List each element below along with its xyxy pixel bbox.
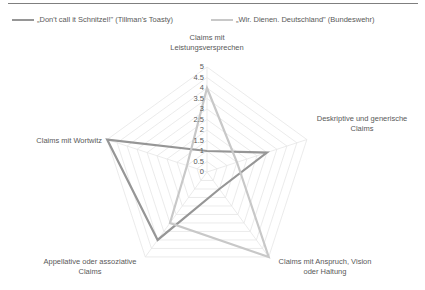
radial-tick-label: 0 [190,167,204,176]
axis-label-line: Claims mit [157,33,257,43]
axis-label-line: Appellative oder assoziative [30,257,150,267]
axis-label-line: Leistungsversprechen [157,43,257,53]
axis-label-appellative: Appellative oder assoziative Claims [30,257,150,277]
radial-tick-label: 2 [190,125,204,134]
axis-label-line: Claims mit Anspruch, Vision [265,257,385,267]
radial-tick-label: 5 [190,62,204,71]
radial-tick-label: 1 [190,146,204,155]
axis-label-line: Claims mit Wortwitz [22,136,102,146]
axis-label-anspruch: Claims mit Anspruch, Vision oder Haltung [265,257,385,277]
axis-label-deskriptive: Deskriptive und generische Claims [302,114,422,134]
axis-spoke [207,140,307,172]
radial-tick-label: 1.5 [190,136,204,145]
radial-tick-label: 0.5 [190,157,204,166]
axis-label-leistungsversprechen: Claims mit Leistungsversprechen [157,33,257,53]
axis-label-line: Deskriptive und generische [302,114,422,124]
axis-label-line: Claims [30,267,150,277]
radial-tick-label: 3.5 [190,94,204,103]
axis-label-line: Claims [302,124,422,134]
radial-tick-label: 4 [190,83,204,92]
axis-label-line: oder Haltung [265,267,385,277]
radial-tick-label: 3 [190,104,204,113]
radial-tick-label: 4.5 [190,73,204,82]
radial-tick-label: 2.5 [190,115,204,124]
axis-label-wortwitz: Claims mit Wortwitz [22,136,102,146]
